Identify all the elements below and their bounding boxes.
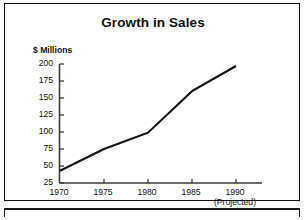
bottom-rule-bar — [4, 208, 300, 217]
sales-line-series — [60, 66, 236, 171]
chart-frame: Growth in Sales $ Millions 200 175 150 1… — [4, 3, 300, 201]
plot-area: 200 175 150 125 100 75 50 25 1970 1975 1… — [5, 4, 301, 202]
chart-page: Growth in Sales $ Millions 200 175 150 1… — [0, 0, 305, 220]
chart-svg — [5, 4, 301, 202]
